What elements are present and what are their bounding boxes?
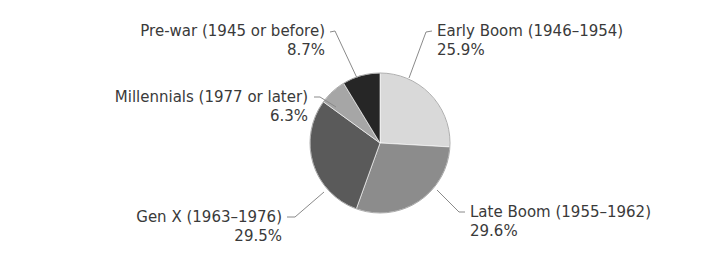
pie-slices [310, 73, 450, 213]
leader-line-early-boom [409, 31, 432, 78]
label-pre-war-name: Pre-war (1945 or before) [140, 22, 325, 40]
label-early-boom-name: Early Boom (1946–1954) [437, 22, 623, 40]
label-early-boom-pct: 25.9% [437, 41, 485, 59]
leader-line-pre-war [330, 31, 357, 78]
label-gen-x-name: Gen X (1963–1976) [136, 208, 282, 226]
label-late-boom-pct: 29.6% [470, 222, 518, 240]
pie-slice-early-boom [380, 73, 450, 147]
leader-line-gen-x [287, 192, 324, 217]
pie-chart: Pre-war (1945 or before) 8.7% Early Boom… [0, 0, 718, 266]
label-millennials-pct: 6.3% [270, 107, 308, 125]
leader-line-late-boom [437, 190, 465, 212]
label-pre-war-pct: 8.7% [287, 41, 325, 59]
label-millennials-name: Millennials (1977 or later) [115, 88, 308, 106]
label-gen-x-pct: 29.5% [234, 227, 282, 245]
label-late-boom-name: Late Boom (1955–1962) [470, 203, 651, 221]
